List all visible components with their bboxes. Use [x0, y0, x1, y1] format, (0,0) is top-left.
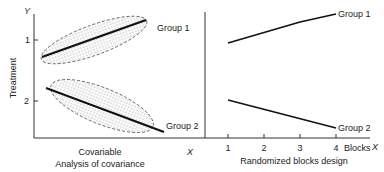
y-tick-label-1: 1: [25, 35, 30, 45]
x-tick-label-1: 1: [225, 143, 230, 153]
group1-scatter-region: [36, 7, 152, 73]
group2-line: [228, 100, 336, 128]
x-axis-symbol: X: [186, 147, 194, 157]
group1-label: Group 1: [338, 9, 371, 19]
x-tick-label-2: 2: [261, 143, 266, 153]
x-axis-label: Blocks: [344, 143, 371, 153]
y-tick-label-2: 2: [24, 96, 29, 106]
right-panel-randomized-blocks: 1 2 3 4 Blocks X Group 1 Group 2 Randomi…: [205, 9, 379, 166]
x-tick-label-4: 4: [333, 143, 338, 153]
group2-scatter-region: [44, 69, 159, 144]
panel-caption: Analysis of covariance: [55, 159, 145, 169]
group1-label: Group 1: [157, 23, 190, 33]
group1-line: [228, 14, 336, 43]
y-axis-label: Treatment: [8, 57, 18, 98]
x-axis-symbol: X: [371, 142, 379, 152]
figure: Y 1 2 Treatment Group 1 Group 2 Covariab…: [0, 0, 384, 172]
left-panel-analysis-of-covariance: Y 1 2 Treatment Group 1 Group 2 Covariab…: [8, 6, 205, 169]
x-axis-label: Covariable: [78, 147, 121, 157]
group2-label: Group 2: [166, 121, 199, 131]
panel-caption: Randomized blocks design: [240, 156, 348, 166]
group2-label: Group 2: [338, 123, 371, 133]
y-axis-symbol: Y: [24, 6, 31, 16]
x-tick-label-3: 3: [297, 143, 302, 153]
